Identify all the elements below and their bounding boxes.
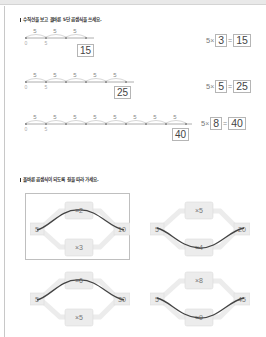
- section2-instruction: 올바른 곱셈식이 되도록 길을 따라 가세요.: [20, 176, 99, 182]
- tick-label: 0: [25, 84, 28, 90]
- top-bar: [0, 0, 266, 5]
- jump-label: 5: [53, 28, 57, 34]
- number-line-3-answer-box[interactable]: 40: [172, 128, 189, 141]
- jump-label: 5: [93, 114, 97, 120]
- jump-label: 5: [153, 114, 157, 120]
- equation-3: 5 × 8 = 40: [201, 117, 247, 130]
- jump-label: 5: [73, 72, 77, 78]
- jump-label: 5: [133, 114, 137, 120]
- tick-label: 0: [25, 126, 28, 132]
- section1-instruction-text: 수직선을 보고 올바른 5단 곱셈식을 쓰세요.: [23, 17, 102, 22]
- bottom-option: ×3: [75, 244, 83, 251]
- number-line-1-answer-box[interactable]: 15: [77, 44, 94, 57]
- jump-label: 5: [73, 114, 77, 120]
- equation-2: 5 × 5 = 25: [206, 80, 252, 93]
- top-option: ×8: [195, 277, 203, 284]
- equation-1: 5 × 3 = 15: [206, 34, 252, 47]
- times-sign: ×: [205, 120, 209, 127]
- product-box[interactable]: 25: [233, 80, 251, 93]
- product-box[interactable]: 15: [233, 34, 251, 47]
- top-option: ×5: [195, 207, 203, 214]
- jump-label: 5: [33, 28, 37, 34]
- equals-sign: =: [223, 120, 227, 127]
- jump-label: 5: [73, 28, 77, 34]
- tick-label: 5: [45, 40, 48, 46]
- multiplier-box[interactable]: 8: [210, 117, 222, 130]
- bullet-marker: [20, 18, 21, 22]
- start-number: 5: [155, 296, 159, 303]
- section1-instruction: 수직선을 보고 올바른 5단 곱셈식을 쓰세요.: [20, 16, 102, 22]
- equals-sign: =: [228, 37, 232, 44]
- product-box[interactable]: 40: [228, 117, 246, 130]
- tick-label: 5: [45, 126, 48, 132]
- number-line-3: 5 5 5 5 5 5 5 5 0 5: [22, 112, 197, 134]
- jump-label: 5: [173, 114, 177, 120]
- jump-label: 5: [113, 72, 117, 78]
- left-margin-rule: [4, 6, 5, 337]
- jump-label: 5: [33, 72, 37, 78]
- tick-label: 0: [25, 40, 28, 46]
- path-puzzle-4: 5 ×8 ×9 45: [150, 267, 250, 331]
- times-sign: ×: [210, 37, 214, 44]
- path-puzzle-3: 5 ×6 ×5 30: [30, 267, 130, 331]
- section2-instruction-text: 올바른 곱셈식이 되도록 길을 따라 가세요.: [23, 177, 98, 182]
- path-puzzle-2: 5 ×5 ×4 20: [150, 197, 250, 261]
- path-puzzle-1: 5 ×2 ×3 10: [30, 197, 130, 261]
- equals-sign: =: [228, 83, 232, 90]
- bullet-marker: [20, 178, 21, 182]
- jump-label: 5: [53, 114, 57, 120]
- bottom-option: ×5: [75, 314, 83, 321]
- jump-label: 5: [113, 114, 117, 120]
- jump-label: 5: [33, 114, 37, 120]
- multiplier-box[interactable]: 3: [215, 34, 227, 47]
- jump-label: 5: [53, 72, 57, 78]
- times-sign: ×: [210, 83, 214, 90]
- number-line-2-answer-box[interactable]: 25: [114, 86, 131, 99]
- tick-label: 5: [45, 84, 48, 90]
- multiplier-box[interactable]: 5: [215, 80, 227, 93]
- jump-label: 5: [93, 72, 97, 78]
- start-number: 5: [155, 226, 159, 233]
